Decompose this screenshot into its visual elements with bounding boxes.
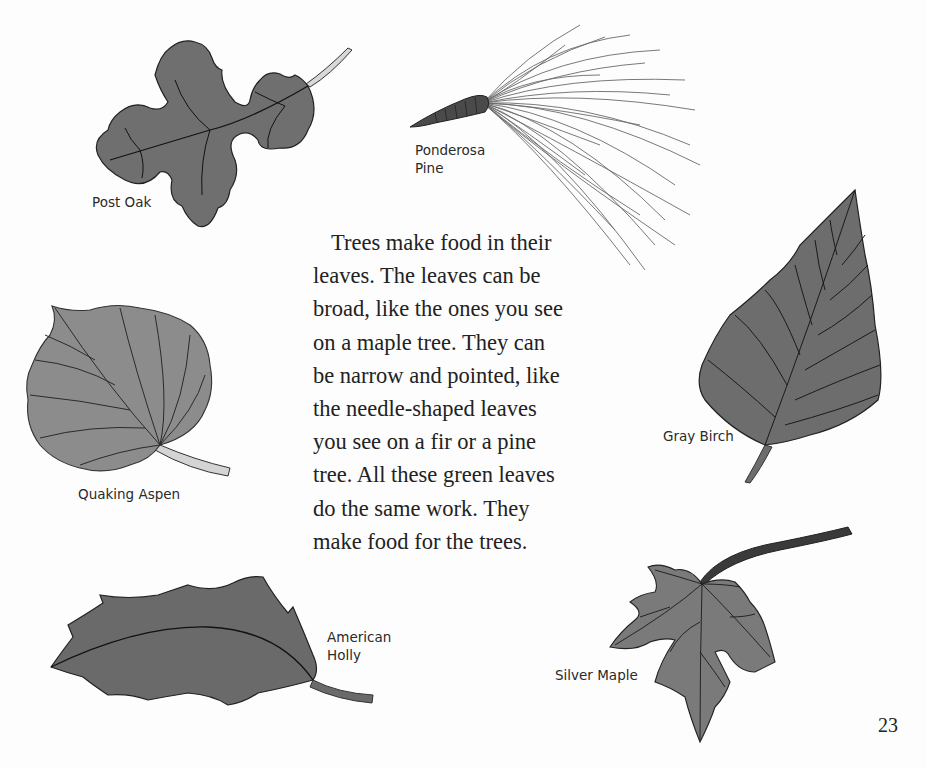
body-line: make food for the trees. [313, 525, 613, 558]
body-line: Trees make food in their [313, 226, 613, 259]
book-page: Post Oak [0, 0, 927, 769]
quaking-aspen-caption: Quaking Aspen [78, 485, 180, 503]
body-line: broad, like the ones you see [313, 292, 613, 325]
page-number: 23 [878, 714, 898, 737]
body-line: the needle-shaped leaves [313, 392, 613, 425]
american-holly-caption: American Holly [327, 628, 391, 664]
ponderosa-pine-caption: Ponderosa Pine [415, 141, 485, 177]
body-line: leaves. The leaves can be [313, 259, 613, 292]
post-oak-caption: Post Oak [92, 193, 151, 211]
body-line: tree. All these green leaves [313, 458, 613, 491]
body-line: be narrow and pointed, like [313, 359, 613, 392]
silver-maple-caption: Silver Maple [555, 666, 638, 684]
silver-maple-leaf-illustration [600, 522, 860, 747]
aspen-leaf-icon [20, 300, 240, 490]
maple-leaf-icon [600, 522, 860, 747]
body-paragraph: Trees make food in their leaves. The lea… [313, 226, 613, 558]
body-line: you see on a fir or a pine [313, 425, 613, 458]
quaking-aspen-leaf-illustration [20, 300, 240, 490]
gray-birch-caption: Gray Birch [663, 427, 734, 445]
body-line: do the same work. They [313, 492, 613, 525]
body-line: on a maple tree. They can [313, 326, 613, 359]
